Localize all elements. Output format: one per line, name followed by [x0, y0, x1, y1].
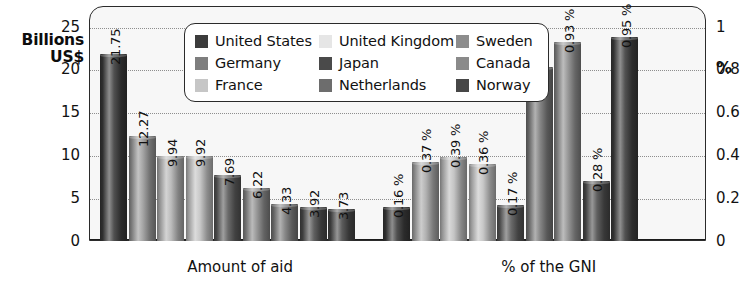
bar-value-label: 9.92 — [193, 139, 208, 167]
bar-value-label: 12.27 — [136, 111, 151, 147]
bar — [440, 157, 467, 241]
bar-value-label: 3.92 — [307, 190, 322, 218]
bar — [100, 54, 127, 241]
bar-value-label: 4.33 — [279, 187, 294, 215]
legend-swatch-icon — [456, 35, 469, 48]
y-axis-tick-right: 0 — [716, 234, 726, 249]
legend-item-label: United Kingdom — [339, 33, 454, 49]
y-axis-tick-right: 0.6 — [716, 105, 740, 120]
chart-legend: United StatesUnited KingdomSwedenGermany… — [184, 23, 549, 102]
y-axis-tick-left: 10 — [4, 148, 80, 163]
y-axis-tick-right: 0.8 — [716, 62, 740, 77]
y-axis-tick-right: 0.4 — [716, 148, 740, 163]
legend-swatch-icon — [319, 35, 332, 48]
legend-item-label: United States — [215, 33, 312, 49]
y-axis-tick-left: 25 — [4, 20, 80, 35]
legend-item[interactable]: Germany — [195, 55, 319, 71]
bar-value-label: 0.39 % — [448, 124, 463, 168]
bar — [469, 164, 496, 241]
aid-comparison-chart: Billions US$ % 21.7512.279.949.927.696.2… — [0, 0, 756, 291]
legend-item-label: Sweden — [476, 33, 533, 49]
legend-swatch-icon — [456, 57, 469, 70]
legend-item[interactable]: Sweden — [456, 33, 540, 49]
legend-item[interactable]: France — [195, 77, 319, 93]
bar — [129, 136, 156, 241]
y-axis-tick-left: 5 — [4, 191, 80, 206]
bar-value-label: 21.75 — [108, 29, 123, 65]
y-axis-tick-right: 0.2 — [716, 191, 740, 206]
legend-item[interactable]: United States — [195, 33, 319, 49]
legend-item[interactable]: Netherlands — [319, 77, 456, 93]
bar-value-label: 0.95 % — [619, 4, 634, 48]
y-axis-tick-left: 20 — [4, 62, 80, 77]
bar-value-label: 0.17 % — [505, 171, 520, 215]
legend-item-label: Norway — [476, 77, 530, 93]
legend-item[interactable]: Canada — [456, 55, 540, 71]
legend-item-label: Netherlands — [339, 77, 426, 93]
bar-value-label: 9.94 — [165, 139, 180, 167]
bar-value-label: 0.28 % — [590, 148, 605, 192]
bar-value-label: 7.69 — [222, 158, 237, 186]
legend-item[interactable]: Japan — [319, 55, 456, 71]
bar-value-label: 0.37 % — [419, 128, 434, 172]
y-axis-tick-left: 0 — [4, 234, 80, 249]
legend-swatch-icon — [195, 57, 208, 70]
bar-value-label: 0.93 % — [562, 8, 577, 52]
legend-item-label: Japan — [339, 55, 379, 71]
legend-item-label: Canada — [476, 55, 531, 71]
bar-value-label: 3.73 — [336, 192, 351, 220]
legend-swatch-icon — [195, 79, 208, 92]
legend-item[interactable]: Norway — [456, 77, 540, 93]
legend-swatch-icon — [195, 35, 208, 48]
legend-grid: United StatesUnited KingdomSwedenGermany… — [195, 30, 540, 96]
x-axis-category-label: Amount of aid — [165, 258, 315, 276]
bar — [157, 156, 184, 241]
bar — [186, 156, 213, 241]
bar-value-label: 6.22 — [250, 170, 265, 198]
legend-item[interactable]: United Kingdom — [319, 33, 456, 49]
bar — [554, 42, 581, 241]
y-axis-tick-right: 1 — [716, 20, 726, 35]
x-axis-category-label: % of the GNI — [474, 258, 624, 276]
legend-item-label: Germany — [215, 55, 281, 71]
bar-value-label: 0.36 % — [476, 131, 491, 175]
legend-swatch-icon — [319, 79, 332, 92]
y-axis-tick-left: 15 — [4, 105, 80, 120]
bar-value-label: 0.16 % — [391, 173, 406, 217]
legend-item-label: France — [215, 77, 263, 93]
legend-swatch-icon — [319, 57, 332, 70]
bar — [611, 37, 638, 241]
bar — [412, 162, 439, 241]
legend-swatch-icon — [456, 79, 469, 92]
